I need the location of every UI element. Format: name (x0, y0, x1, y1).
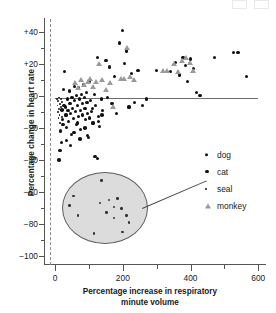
y-tick-label: −60 (8, 187, 38, 197)
x-tick-label: 0 (35, 273, 75, 283)
data-point-monkey (131, 77, 137, 82)
y-tick-label: −100 (8, 251, 38, 261)
x-axis-spine (44, 264, 266, 265)
legend-item-cat[interactable]: cat (205, 163, 275, 180)
data-point-monkey (171, 61, 177, 66)
data-point-cat (100, 113, 104, 117)
data-point-monkey (164, 68, 170, 73)
inset-data-point-seal (68, 204, 71, 207)
data-point-monkey (93, 79, 99, 84)
data-point-dog (108, 65, 111, 68)
data-point-monkey (107, 80, 113, 85)
legend-circle-icon (205, 153, 208, 156)
data-point-dog (213, 56, 216, 59)
data-point-monkey (96, 61, 102, 66)
data-point-dog (79, 109, 82, 112)
y-tick-label: −40 (8, 155, 38, 165)
inset-data-point-seal (77, 214, 80, 217)
inset-data-point-seal (120, 207, 123, 210)
data-point-dog (101, 109, 104, 112)
legend-circle-icon (205, 188, 207, 190)
data-point-monkey (110, 104, 116, 109)
data-point-dog (236, 51, 239, 54)
x-axis-title-line1: Percentage increase in respiratory (83, 287, 217, 296)
legend-item-seal[interactable]: seal (205, 180, 275, 197)
data-point-dog (100, 97, 103, 100)
data-point-dog (96, 56, 99, 59)
legend: dogcatsealmonkey (205, 146, 275, 214)
inset-data-point-seal (116, 197, 119, 200)
legend-label: seal (217, 184, 232, 194)
data-point-monkey (124, 45, 130, 50)
data-point-cat (83, 126, 87, 130)
legend-item-dog[interactable]: dog (205, 146, 275, 163)
legend-item-monkey[interactable]: monkey (205, 197, 275, 214)
data-point-dog (64, 113, 67, 116)
y-tick-label: +40 (8, 27, 38, 37)
data-point-monkey (103, 87, 109, 92)
x-tick-minor (224, 265, 225, 269)
x-tick-major (258, 265, 259, 271)
data-point-dog (77, 115, 80, 118)
legend-label: monkey (217, 201, 246, 211)
data-point-monkey (99, 77, 105, 82)
x-tick-label: 400 (171, 273, 211, 283)
data-point-seal (59, 103, 61, 105)
data-point-seal (61, 116, 63, 118)
x-tick-major (55, 265, 56, 271)
data-point-dog (83, 107, 86, 110)
inset-magnifier-ellipse (62, 172, 148, 244)
data-point-seal (60, 98, 62, 100)
x-tick-minor (157, 265, 158, 269)
data-point-dog (85, 101, 88, 104)
x-tick-label: 600 (238, 273, 276, 283)
data-point-monkey (75, 85, 81, 90)
legend-circle-icon (205, 170, 209, 174)
x-tick-minor (89, 265, 90, 269)
data-point-monkey (90, 84, 96, 89)
x-tick-major (191, 265, 192, 271)
data-point-seal (57, 100, 59, 102)
legend-triangle-icon (205, 203, 211, 208)
y-tick-label: +20 (8, 59, 38, 69)
data-point-dog (91, 121, 94, 124)
data-point-dog (104, 59, 107, 62)
page-artifact (232, 0, 274, 8)
data-point-monkey (187, 60, 193, 65)
legend-label: dog (217, 150, 231, 160)
y-tick-label: 0 (8, 91, 38, 101)
data-point-dog (93, 93, 96, 96)
data-point-cat (57, 158, 61, 162)
data-point-seal (60, 109, 62, 111)
y-tick-label: −20 (8, 123, 38, 133)
data-point-dog (118, 41, 121, 44)
y-tick-label: −80 (8, 219, 38, 229)
data-point-dog (145, 97, 148, 100)
data-point-dog (60, 141, 63, 144)
inset-data-point-seal (72, 195, 75, 198)
x-tick-label: 200 (103, 273, 143, 283)
legend-label: cat (217, 167, 228, 177)
x-axis-title-line2: minute volume (121, 298, 179, 307)
x-tick-major (123, 265, 124, 271)
data-point-cat (62, 104, 66, 108)
y-tick-label-group: +40+200−20−40−60−80−100 (2, 0, 38, 313)
inset-data-point-seal (100, 179, 103, 182)
x-axis-title: Percentage increase in respiratory minut… (30, 287, 270, 308)
inset-data-point-seal (99, 202, 102, 205)
inset-data-point-seal (125, 214, 128, 217)
data-point-dog (68, 89, 71, 92)
data-point-monkey (175, 69, 181, 74)
data-point-dog (72, 117, 75, 120)
data-point-dog (127, 105, 130, 108)
data-point-dog (78, 97, 81, 100)
data-point-monkey (190, 68, 196, 73)
data-point-seal (57, 111, 59, 113)
inset-data-point-seal (105, 211, 108, 214)
scatter-plot-figure: Percentage change in heart rate Percenta… (0, 0, 276, 313)
data-point-cat (58, 149, 62, 153)
inset-data-point-seal (93, 232, 96, 235)
data-point-cat (76, 121, 80, 125)
data-point-dog (136, 69, 139, 72)
data-point-cat (78, 137, 82, 141)
